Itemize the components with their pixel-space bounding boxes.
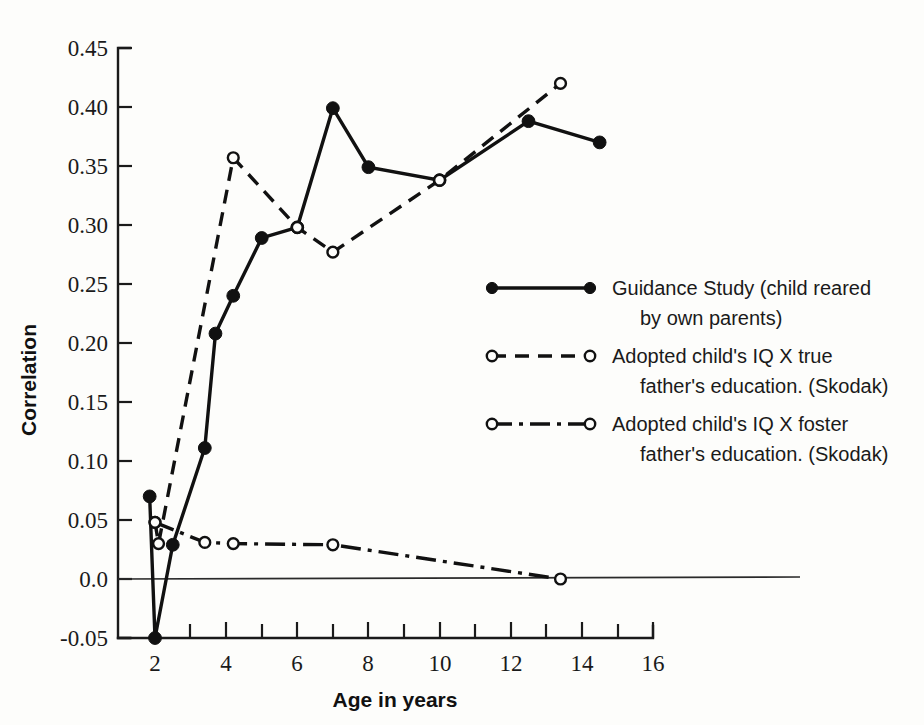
x-tick-label: 12 <box>500 651 523 676</box>
legend-open-circle-icon <box>487 419 497 429</box>
legend-entry[interactable]: Guidance Study (child rearedby own paren… <box>486 277 871 329</box>
y-tick-label: -0.05 <box>60 626 108 651</box>
data-series <box>143 102 606 645</box>
series-path <box>150 108 600 638</box>
x-tick-label: 6 <box>291 651 303 676</box>
x-tick-label: 4 <box>220 651 232 676</box>
legend-open-circle-icon <box>585 419 595 429</box>
legend-label-line2: father's education. (Skodak) <box>640 375 888 397</box>
x-tick-label: 8 <box>362 651 374 676</box>
y-tick-label: 0.30 <box>68 213 108 238</box>
legend-label-line1: Adopted child's IQ X foster <box>612 413 849 435</box>
y-axis-title: Correlation <box>17 324 40 436</box>
zero-reference-line <box>118 577 800 579</box>
y-tick-label: 0.25 <box>68 272 108 297</box>
data-point-marker <box>555 574 566 585</box>
legend-entry[interactable]: Adopted child's IQ X fosterfather's educ… <box>487 413 889 465</box>
data-point-marker <box>434 175 445 186</box>
x-tick-label: 2 <box>149 651 161 676</box>
chart-page: Correlation -0.05 0.0 0.05 0.10 0.15 0. <box>0 0 924 725</box>
data-point-marker <box>153 538 164 549</box>
legend-open-circle-icon <box>585 351 595 361</box>
y-axis-title-text: Correlation <box>17 324 40 436</box>
data-point-marker <box>255 232 268 245</box>
x-tick-labels: 2 4 6 8 10 12 14 16 <box>149 651 664 676</box>
data-point-marker <box>150 517 161 528</box>
series-path <box>155 522 561 579</box>
y-tick-label: 0.15 <box>68 390 108 415</box>
legend-entry[interactable]: Adopted child's IQ X truefather's educat… <box>487 345 889 397</box>
data-point-marker <box>327 247 338 258</box>
data-point-marker <box>199 537 210 548</box>
x-tick-marks <box>155 622 653 638</box>
y-tick-label: 0.0 <box>79 567 108 592</box>
chart-legend[interactable]: Guidance Study (child rearedby own paren… <box>486 277 888 465</box>
data-point-marker <box>209 327 222 340</box>
legend-open-circle-icon <box>487 351 497 361</box>
data-point-marker <box>228 538 239 549</box>
data-point-marker <box>326 102 339 115</box>
y-tick-label: 0.45 <box>68 36 108 61</box>
data-point-marker <box>198 442 211 455</box>
data-point-marker <box>362 161 375 174</box>
data-point-marker <box>166 538 179 551</box>
legend-filled-circle-icon <box>584 282 595 293</box>
y-tick-label: 0.20 <box>68 331 108 356</box>
x-axis-line <box>118 626 653 638</box>
x-tick-label: 10 <box>429 651 452 676</box>
legend-label-line1: Adopted child's IQ X true <box>612 345 833 367</box>
data-point-marker <box>292 222 303 233</box>
y-tick-label: 0.05 <box>68 508 108 533</box>
data-point-marker <box>593 136 606 149</box>
series-layer <box>143 78 606 644</box>
legend-filled-circle-icon <box>486 282 497 293</box>
data-point-marker <box>555 78 566 89</box>
y-tick-label: 0.10 <box>68 449 108 474</box>
data-point-marker <box>143 490 156 503</box>
data-series <box>150 517 566 584</box>
x-tick-label: 14 <box>571 651 595 676</box>
y-tick-marks <box>118 48 132 638</box>
y-tick-label: 0.40 <box>68 95 108 120</box>
data-point-marker <box>522 115 535 128</box>
x-axis-title: Age in years <box>333 688 458 711</box>
correlation-line-chart: Correlation -0.05 0.0 0.05 0.10 0.15 0. <box>0 0 924 725</box>
legend-label-line2: father's education. (Skodak) <box>640 443 888 465</box>
y-tick-label: 0.35 <box>68 154 108 179</box>
data-point-marker <box>327 539 338 550</box>
data-point-marker <box>228 152 239 163</box>
y-tick-labels: -0.05 0.0 0.05 0.10 0.15 0.20 0.25 0.30 … <box>60 36 108 651</box>
x-tick-label: 16 <box>642 651 665 676</box>
legend-label-line1: Guidance Study (child reared <box>612 277 871 299</box>
legend-label-line2: by own parents) <box>640 307 782 329</box>
data-point-marker <box>227 289 240 302</box>
data-point-marker <box>149 632 162 645</box>
